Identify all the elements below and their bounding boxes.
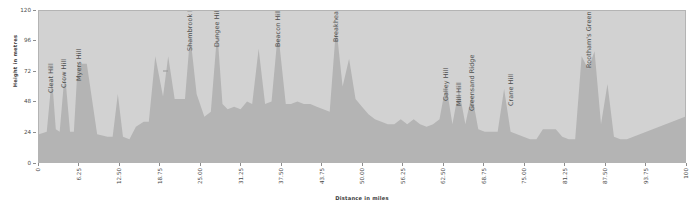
elevation-profile-chart: Height in metres 024487296120 Cleat Hill… xyxy=(0,0,694,208)
y-axis-tick-mark xyxy=(33,10,36,11)
x-axis-tick-mark xyxy=(78,163,79,166)
y-axis-tick-label: 96 xyxy=(24,37,31,43)
hill-label: Myers Hill xyxy=(75,48,83,80)
x-axis-tick-mark xyxy=(402,163,403,166)
y-axis-tick-mark xyxy=(33,40,36,41)
x-axis-tick-label: 31.25 xyxy=(238,168,244,184)
x-axis-tick-label: 100 xyxy=(683,168,689,179)
x-axis-tick-mark xyxy=(119,163,120,166)
x-axis-tick-label: 68.75 xyxy=(481,168,487,184)
hill-label: Crow Hill xyxy=(60,59,68,88)
y-axis-tick-mark xyxy=(33,163,36,164)
hill-label: Crane Hill xyxy=(507,74,515,106)
x-axis-tick-mark xyxy=(38,163,39,166)
x-axis-tick-label: 43.75 xyxy=(319,168,325,184)
y-axis-title: Height in metres xyxy=(12,16,18,106)
x-axis-tick-label: 62.50 xyxy=(440,168,446,184)
hill-label: Cleat Hill xyxy=(47,64,55,94)
hill-label: Galley Hill xyxy=(442,68,450,101)
hill-label: Rootham's Green xyxy=(585,11,593,68)
x-axis-tick-mark xyxy=(281,163,282,166)
y-axis-tick-label: 72 xyxy=(24,68,31,74)
hill-label: Dungee Hill xyxy=(213,10,221,47)
x-axis-tick-label: 75.00 xyxy=(521,168,527,184)
x-axis-tick-label: 81.25 xyxy=(562,168,568,184)
y-axis-tick-label: 120 xyxy=(20,7,31,13)
x-axis-tick-mark xyxy=(362,163,363,166)
x-axis-tick-mark xyxy=(645,163,646,166)
x-axis-tick-label: 50.00 xyxy=(359,168,365,184)
y-axis-tick-label: 24 xyxy=(24,129,31,135)
x-axis-tick-mark xyxy=(159,163,160,166)
hill-label: Breakheart Hill xyxy=(332,10,340,42)
hill-label: Greensand Ridge xyxy=(468,55,476,112)
x-axis-tick-label: 0 xyxy=(35,168,41,172)
x-axis-tick-label: 12.50 xyxy=(116,168,122,184)
plot-area: Cleat HillCrow HillMyers HillShambrook H… xyxy=(38,10,686,163)
y-axis-tick-label: 0 xyxy=(27,160,31,166)
y-axis-tick-mark xyxy=(33,71,36,72)
hill-label: Mill Hill xyxy=(455,82,463,106)
x-axis-tick-label: 6.25 xyxy=(76,168,82,180)
x-axis-tick-mark xyxy=(200,163,201,166)
y-axis-tick-mark xyxy=(33,101,36,102)
x-axis-tick-label: 25.00 xyxy=(197,168,203,184)
x-axis-tick-mark xyxy=(564,163,565,166)
x-axis-tick-label: 56.25 xyxy=(400,168,406,184)
x-axis-tick-mark xyxy=(321,163,322,166)
x-axis-tick-label: 37.50 xyxy=(278,168,284,184)
stray-mark xyxy=(163,70,168,72)
x-axis-tick-mark xyxy=(524,163,525,166)
x-axis-tick-label: 18.75 xyxy=(157,168,163,184)
y-axis-tick-mark xyxy=(33,132,36,133)
x-axis-tick-mark xyxy=(443,163,444,166)
x-axis-tick-label: 93.75 xyxy=(643,168,649,184)
x-axis-title: Distance in miles xyxy=(38,195,686,201)
y-axis-tick-label: 48 xyxy=(24,98,31,104)
x-axis-tick-mark xyxy=(605,163,606,166)
x-axis-tick-mark xyxy=(483,163,484,166)
hill-label: Shambrook Hill xyxy=(186,10,194,51)
x-axis-tick-label: 87.50 xyxy=(602,168,608,184)
hill-label: Beacon Hill xyxy=(274,10,282,47)
x-axis-tick-mark xyxy=(240,163,241,166)
x-axis-tick-mark xyxy=(686,163,687,166)
